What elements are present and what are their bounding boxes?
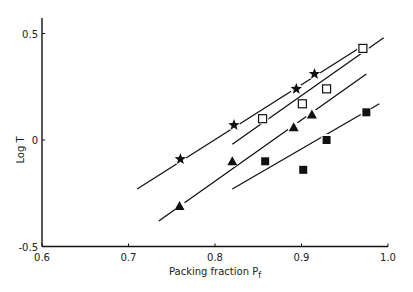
filled-square-marker [323, 136, 331, 144]
fit-lines [137, 38, 384, 221]
filled-square-marker [261, 157, 269, 165]
filled-square-marker [299, 166, 307, 174]
x-tick-label: 0.9 [294, 252, 310, 263]
chart: 0.60.70.80.91.00.50-0.5 Log T Packing fr… [0, 0, 413, 292]
axes: 0.60.70.80.91.00.50-0.5 [18, 18, 395, 263]
fit-line-star [137, 46, 362, 189]
y-tick-label: 0.5 [22, 29, 38, 40]
open-square-marker [298, 100, 306, 108]
axis-labels: Log T Packing fraction Pf [15, 136, 261, 280]
x-tick-label: 0.7 [121, 252, 137, 263]
open-square-marker [259, 115, 267, 123]
open-square-marker [323, 85, 331, 93]
data-points [174, 42, 373, 212]
fit-line-triangle [159, 74, 367, 221]
x-axis-label: Packing fraction Pf [169, 266, 261, 280]
x-tick-label: 1.0 [380, 252, 396, 263]
y-tick-label: 0 [32, 135, 38, 146]
x-tick-label: 0.6 [34, 252, 50, 263]
filled-square-marker [362, 108, 370, 116]
x-tick-label: 0.8 [207, 252, 223, 263]
y-tick-label: -0.5 [18, 242, 38, 253]
open-square-marker [359, 44, 367, 52]
scatter-plot: 0.60.70.80.91.00.50-0.5 Log T Packing fr… [0, 0, 413, 292]
y-axis-label: Log T [15, 136, 26, 164]
